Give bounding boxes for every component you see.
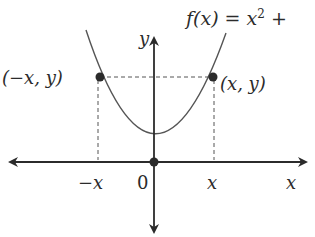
origin-label: 0 — [137, 172, 148, 193]
neg-x-tick-label: −x — [78, 172, 103, 193]
dashed-guides — [98, 77, 214, 160]
right-point-label: (x, y) — [220, 73, 266, 94]
origin-point — [150, 158, 159, 167]
y-axis-label: y — [138, 28, 150, 49]
left-point-label: (−x, y) — [2, 67, 63, 88]
even-function-diagram: f(x) = x2 + y x −x 0 x (−x, y) (x, y) — [0, 0, 315, 237]
x-axis-label: x — [286, 172, 296, 193]
left-point — [96, 73, 105, 82]
function-label: f(x) = x2 + — [184, 7, 287, 29]
parabola-curve — [86, 30, 226, 134]
right-point — [209, 73, 218, 82]
pos-x-tick-label: x — [207, 172, 217, 193]
function-label-prefix: f(x) = x — [184, 7, 258, 29]
function-label-suffix: + — [265, 7, 287, 29]
function-label-exponent: 2 — [257, 7, 265, 21]
